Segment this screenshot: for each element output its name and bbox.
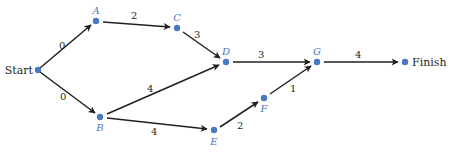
edge-c-d xyxy=(183,32,220,58)
node-c xyxy=(174,25,180,31)
weight-b-d: 4 xyxy=(147,83,153,94)
label-g: G xyxy=(313,46,321,57)
node-labels: Start A B C D E F G Finish xyxy=(5,5,447,147)
node-finish xyxy=(402,59,408,65)
weight-e-f: 2 xyxy=(237,120,243,131)
edge-b-d xyxy=(107,65,219,114)
nodes xyxy=(35,18,408,133)
weight-f-g: 1 xyxy=(290,83,296,94)
weight-d-g: 3 xyxy=(258,49,264,60)
label-finish: Finish xyxy=(412,56,446,69)
label-b: B xyxy=(95,122,103,133)
weight-start-b: 0 xyxy=(60,91,66,102)
label-a: A xyxy=(91,5,99,16)
edge-a-c xyxy=(103,22,170,27)
node-b xyxy=(97,114,103,120)
weight-a-c: 2 xyxy=(131,10,137,21)
label-start: Start xyxy=(5,64,34,77)
label-d: D xyxy=(221,46,230,57)
node-start xyxy=(35,67,41,73)
weight-b-e: 4 xyxy=(151,126,157,137)
weight-c-d: 3 xyxy=(194,29,200,40)
edges xyxy=(40,22,398,129)
label-f: F xyxy=(260,103,269,114)
activity-network-diagram: 0 0 2 3 4 4 3 2 1 4 Start A B C D E F G … xyxy=(0,0,451,152)
node-a xyxy=(93,18,99,24)
edge-start-a xyxy=(40,25,91,68)
node-f xyxy=(261,95,267,101)
weight-start-a: 0 xyxy=(59,40,65,51)
node-g xyxy=(314,59,320,65)
node-d xyxy=(223,59,229,65)
edge-weights: 0 0 2 3 4 4 3 2 1 4 xyxy=(59,10,361,137)
label-e: E xyxy=(209,136,218,147)
label-c: C xyxy=(173,12,181,23)
weight-g-finish: 4 xyxy=(355,49,361,60)
node-e xyxy=(211,127,217,133)
edge-start-b xyxy=(40,72,95,113)
